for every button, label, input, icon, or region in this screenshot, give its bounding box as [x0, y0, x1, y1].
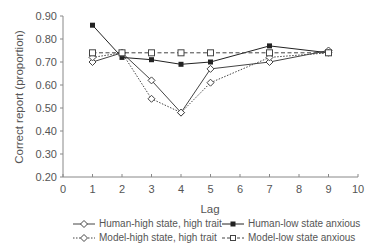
x-tick-label: 5: [207, 183, 213, 195]
y-tick-label: 0.20: [36, 171, 57, 183]
x-tick-label: 6: [237, 183, 243, 195]
data-point: [148, 95, 155, 102]
x-tick-label: 10: [352, 183, 364, 195]
line-chart: 0.200.300.400.500.600.700.800.9001234567…: [0, 0, 383, 250]
y-tick-label: 0.50: [36, 102, 57, 114]
y-tick-label: 0.60: [36, 79, 57, 91]
chart-axes: 0.200.300.400.500.600.700.800.9001234567…: [36, 10, 365, 195]
x-tick-label: 9: [325, 183, 331, 195]
data-point: [90, 23, 95, 28]
y-tick-label: 0.80: [36, 33, 57, 45]
x-tick-label: 8: [296, 183, 302, 195]
x-tick-label: 3: [148, 183, 154, 195]
data-point: [178, 50, 184, 56]
data-point: [179, 62, 184, 67]
data-point: [207, 65, 214, 72]
series-1: [90, 23, 331, 67]
x-tick-label: 1: [89, 183, 95, 195]
chart-series: [89, 23, 332, 116]
y-tick-label: 0.30: [36, 148, 57, 160]
data-point: [149, 57, 154, 62]
y-tick-label: 0.70: [36, 56, 57, 68]
x-axis-title: Lag: [200, 203, 219, 215]
data-point: [208, 60, 213, 65]
data-point: [149, 50, 155, 56]
x-tick-label: 4: [178, 183, 184, 195]
data-point: [267, 50, 273, 56]
x-tick-label: 2: [119, 183, 125, 195]
data-point: [207, 79, 214, 86]
series-2: [89, 49, 332, 116]
data-point: [90, 50, 96, 56]
x-tick-label: 7: [266, 183, 272, 195]
data-point: [119, 50, 125, 56]
data-point: [326, 50, 332, 56]
data-point: [208, 50, 214, 56]
y-tick-label: 0.40: [36, 125, 57, 137]
y-tick-label: 0.90: [36, 10, 57, 22]
data-point: [267, 43, 272, 48]
y-axis-title: Correct report (proportion): [13, 30, 25, 164]
x-tick-label: 0: [60, 183, 66, 195]
